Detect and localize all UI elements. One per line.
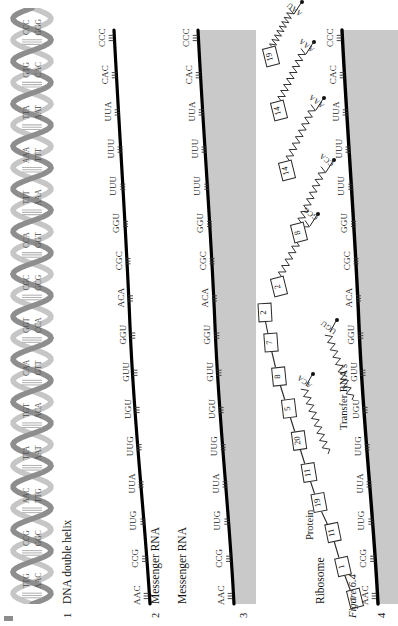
svg-text:CCA: CCA	[22, 232, 31, 248]
codon-label: UUU	[108, 176, 118, 196]
svg-text:AAC: AAC	[34, 573, 43, 589]
svg-text:TGT: TGT	[22, 403, 31, 418]
svg-text:TTT: TTT	[22, 190, 31, 204]
section-title-mrna-2: Messenger RNA	[149, 527, 161, 604]
codon-label: CCC	[181, 28, 191, 47]
codon-label: UUA	[127, 473, 137, 493]
codon-label: UUA	[187, 101, 197, 121]
codon-label: AAC	[360, 585, 370, 605]
svg-text:AAT: AAT	[34, 445, 43, 460]
codon-label: ACA	[116, 288, 126, 308]
codon-label: UUA	[355, 473, 365, 493]
svg-text:TTA: TTA	[22, 445, 31, 460]
trna-residue-number: 2	[271, 278, 283, 297]
section-title-ribosome: Ribosome	[314, 557, 326, 604]
trna-residue-number: 19	[263, 48, 275, 67]
codon-label: ACA	[344, 288, 354, 308]
codon-label: CAC	[328, 65, 338, 84]
svg-text:GGT: GGT	[34, 232, 43, 248]
svg-text:AAA: AAA	[34, 189, 43, 206]
codon-label: GUU	[349, 362, 359, 382]
codon-label: GGU	[195, 213, 205, 233]
section-title-mrna-3: Messenger RNA	[176, 527, 188, 604]
svg-text:CCA: CCA	[34, 317, 43, 333]
codon-label: GGU	[346, 325, 356, 345]
protein-residue-box: 8	[271, 367, 287, 387]
trna-residue-number: 14	[271, 102, 283, 121]
codon-label: UUU	[336, 176, 346, 196]
codon-label: GGU	[118, 325, 128, 345]
protein-residue-number: 7	[264, 334, 274, 352]
codon-label: UUG	[212, 511, 222, 531]
svg-text:GTT: GTT	[34, 360, 43, 375]
codon-label: UUG	[209, 436, 219, 456]
svg-text:CAC: CAC	[34, 62, 43, 78]
protein-residue-number: 20	[292, 432, 303, 450]
section-title-dna: DNA double helix	[61, 520, 73, 604]
codon-label: AAC	[132, 585, 142, 605]
svg-text:CCG: CCG	[22, 530, 31, 546]
svg-text:AAC: AAC	[22, 488, 31, 504]
dna-section: TTGAACCCGGGCAACTTGTTAAATTGTACACAAGTTGGTC…	[0, 0, 84, 626]
svg-text:GGG: GGG	[34, 19, 43, 36]
svg-text:TTG: TTG	[34, 488, 43, 503]
trna-residue-number: 14	[279, 162, 291, 181]
codon-label: UUG	[128, 511, 138, 531]
codon-label: AAC	[216, 585, 226, 605]
codon-label: CCC	[325, 28, 335, 47]
ribosome-section: 7111191120587228141419 GCGCCAAAAAAAAAUAC…	[258, 0, 398, 626]
svg-text:TTT: TTT	[34, 148, 43, 162]
svg-text:ACA: ACA	[34, 402, 43, 419]
codon-label: CGC	[114, 251, 124, 270]
codon-label: UUU	[192, 176, 202, 196]
protein-residue-number: 11	[302, 464, 313, 482]
section-number-1: 1	[62, 613, 73, 618]
section-number-2: 2	[150, 613, 161, 618]
protein-residue-box: 7	[263, 333, 278, 353]
codon-label: CGC	[198, 251, 208, 270]
codon-label: CGC	[342, 251, 352, 270]
codon-label: UGU	[207, 399, 217, 419]
codon-label: UUU	[190, 139, 200, 159]
codon-label: UUA	[103, 101, 113, 121]
codon-label: UUA	[211, 473, 221, 493]
section-number-4: 4	[376, 613, 387, 618]
ribosome-strand-graphic	[332, 0, 398, 626]
svg-text:CAA: CAA	[22, 359, 31, 376]
rotated-figure-stage: TTGAACCCGGGCAACTTGTTAAATTGTACACAAGTTGGTC…	[0, 0, 398, 626]
protein-residue-box: 11	[301, 463, 318, 484]
svg-text:AAT: AAT	[34, 105, 43, 120]
codon-label: CAC	[100, 65, 110, 84]
codon-label: GGU	[339, 213, 349, 233]
section-number-3: 3	[238, 613, 249, 618]
svg-text:GTG: GTG	[22, 62, 31, 78]
trna-residue-number: 8	[291, 224, 303, 243]
codon-label: CCG	[358, 549, 368, 568]
figure-caption: Figure 6.4	[347, 574, 358, 618]
svg-text:AAA: AAA	[22, 146, 31, 163]
codon-label: UUA	[331, 101, 341, 121]
protein-label: Protein	[304, 510, 315, 540]
protein-residue-number: 8	[272, 368, 282, 386]
codon-label: CCG	[130, 549, 140, 568]
mrna-strand-3-graphic	[186, 0, 256, 626]
codon-label: UUG	[356, 511, 366, 531]
protein-residue-number: 2	[259, 304, 268, 321]
codon-label: UUG	[353, 436, 363, 456]
codon-label: CAC	[184, 65, 194, 84]
codon-label: GUU	[121, 362, 131, 382]
codon-label: CCC	[97, 28, 107, 47]
svg-text:CGC: CGC	[22, 275, 31, 291]
codon-label: UUU	[334, 139, 344, 159]
mrna-section-3: AACCCGUUGUUAUUGUGUGUUGGUACACGCGGUUUUUUUU…	[170, 0, 258, 626]
codon-label: GUU	[205, 362, 215, 382]
figure-page: TTGAACCCGGGCAACTTGTTAAATTGTACACAAGTTGGTC…	[0, 0, 398, 626]
codon-label: GGU	[202, 325, 212, 345]
protein-residue-box: 2	[257, 303, 272, 323]
svg-text:GGC: GGC	[34, 530, 43, 546]
svg-text:TTA: TTA	[22, 105, 31, 120]
protein-residue-number: 5	[282, 400, 292, 418]
codon-label: GGU	[111, 213, 121, 233]
protein-residue-box: 20	[291, 431, 308, 452]
codon-label: UGU	[351, 399, 361, 419]
